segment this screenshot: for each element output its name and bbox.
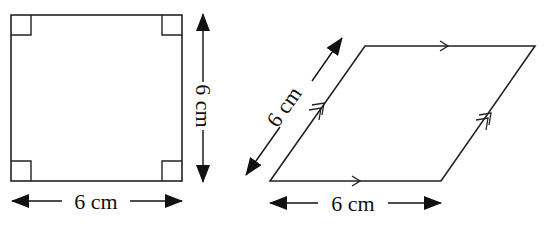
square-width-dimension: 6 cm [12, 189, 182, 214]
square-figure: 6 cm 6 cm [11, 14, 216, 214]
square-height-dimension: 6 cm [191, 14, 216, 182]
parallel-mark-left-icon [309, 103, 324, 120]
diagram-canvas: 6 cm 6 cm 6 cm [0, 0, 544, 225]
right-angle-marker-bottom-left [11, 161, 31, 181]
arrow-down-left-icon [246, 127, 280, 175]
parallelogram-figure: 6 cm 6 cm [246, 38, 535, 216]
parallelogram-base-dimension: 6 cm [270, 191, 441, 216]
parallelogram-base-label: 6 cm [331, 191, 374, 216]
square-outline [11, 15, 182, 181]
square-height-label: 6 cm [191, 84, 216, 127]
parallelogram-slant-dimension: 6 cm [246, 38, 342, 175]
parallelogram-outline [270, 46, 535, 181]
right-angle-marker-top-right [162, 15, 182, 35]
right-angle-marker-bottom-right [162, 161, 182, 181]
right-angle-marker-top-left [11, 15, 31, 35]
parallelogram-slant-label: 6 cm [261, 82, 306, 132]
square-width-label: 6 cm [74, 189, 117, 214]
arrow-up-right-icon [312, 38, 342, 81]
